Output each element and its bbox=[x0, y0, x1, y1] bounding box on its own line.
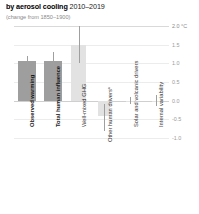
y-tick-label: 0.5 bbox=[172, 79, 180, 85]
category-label: Solar and volcanic drivers bbox=[133, 60, 139, 126]
error-bar bbox=[27, 56, 28, 67]
error-bar bbox=[130, 97, 131, 104]
y-tick-label: -0.5 bbox=[172, 116, 181, 122]
error-bar bbox=[156, 95, 157, 106]
category-label: Total human influence bbox=[55, 66, 61, 127]
y-tick-unit: 2.0 °C bbox=[172, 23, 187, 29]
chart-title-strong: by aerosol cooling bbox=[6, 2, 68, 11]
chart-subtitle: (change from 1850–1900) bbox=[6, 13, 70, 21]
gridline bbox=[14, 82, 169, 83]
chart-title-period: 2010–2019 bbox=[70, 2, 105, 11]
y-tick-label: -1.0 bbox=[172, 135, 181, 141]
gridline bbox=[14, 26, 169, 27]
gridline bbox=[14, 119, 169, 120]
gridline bbox=[14, 63, 169, 64]
y-tick-label: 1.0 bbox=[172, 60, 180, 66]
error-bar bbox=[79, 26, 80, 63]
category-label: Observed warming bbox=[29, 74, 35, 126]
gridline bbox=[14, 138, 169, 139]
category-label: Other human drivers* bbox=[107, 87, 113, 142]
gridline bbox=[14, 101, 169, 102]
plot-area bbox=[14, 26, 169, 138]
category-label: Internal variability bbox=[158, 82, 164, 127]
y-tick-label: 1.5 bbox=[172, 42, 180, 48]
y-tick-label: 0.0 bbox=[172, 98, 180, 104]
error-bar bbox=[53, 52, 54, 71]
gridline bbox=[14, 45, 169, 46]
category-label: Well-mixed GHG bbox=[81, 83, 87, 126]
chart-title: by aerosol cooling 2010–2019 bbox=[6, 2, 105, 11]
error-bar bbox=[104, 104, 105, 130]
chart-container: by aerosol cooling 2010–2019 (change fro… bbox=[0, 0, 199, 214]
